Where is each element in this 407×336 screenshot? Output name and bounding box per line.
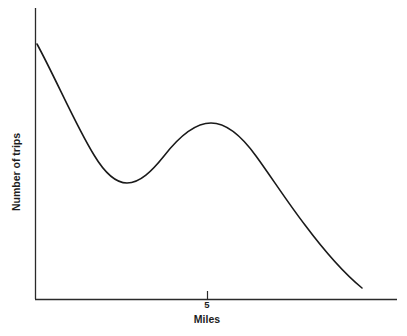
x-axis-label: Miles (194, 313, 220, 325)
trip-distribution-curve (37, 44, 362, 288)
y-axis-label: Number of trips (10, 133, 22, 211)
chart-figure: DISTRIBUTION OF TRIPS BY LENGTH OF HAUL … (0, 0, 407, 336)
plot-area (0, 0, 407, 336)
x-axis-tick-label-5: 5 (204, 299, 209, 310)
